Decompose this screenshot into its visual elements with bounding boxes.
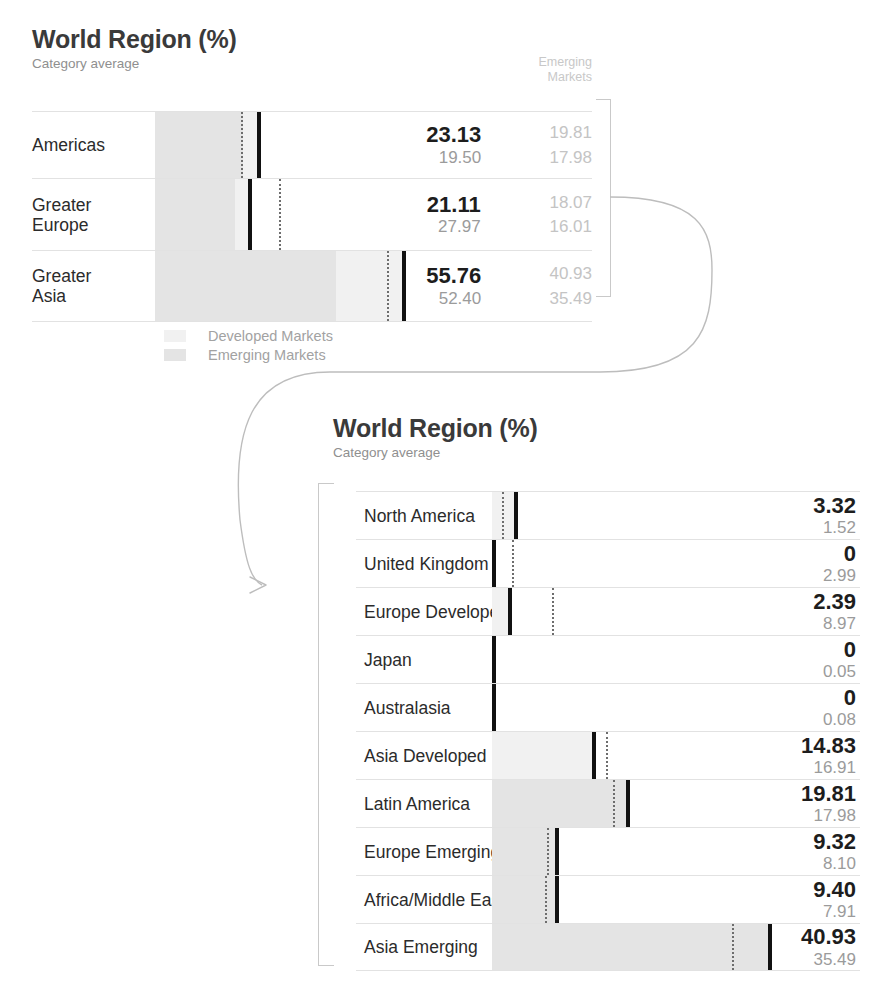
table-row[interactable]: Greater Asia 55.76 40.93 52.40 35.49 [32,250,592,322]
benchmark-value: 35.49 [801,950,856,969]
benchmark-marker [502,492,504,539]
top-chart-emerging-markets-header: Emerging Markets [472,55,592,85]
row-label: United Kingdom [364,554,489,574]
portfolio-value: 0 [823,686,856,711]
portfolio-value: 0 [823,542,856,567]
portfolio-marker [492,684,496,731]
portfolio-value: 14.83 [801,734,856,759]
portfolio-value: 23.13 [426,123,481,148]
bar-segment-emerging [155,251,336,321]
top-chart-rows: Americas 23.13 19.81 19.50 17.98 Greater… [32,111,592,322]
legend-item-developed: Developed Markets [164,326,333,345]
bar-segment-developed [235,179,249,250]
row-values: 9.40 7.91 [813,878,856,922]
benchmark-marker [279,179,281,250]
table-row[interactable]: Americas 23.13 19.81 19.50 17.98 [32,111,592,178]
row-values: 0 0.08 [823,686,856,730]
bar-segment-emerging [492,924,768,970]
table-row[interactable]: United Kingdom 0 2.99 [356,539,860,587]
benchmark-value: 0.08 [823,711,856,730]
row-plot [492,684,860,731]
portfolio-value: 21.11 [427,193,481,218]
portfolio-marker [626,780,630,827]
benchmark-value: 8.97 [813,615,856,634]
emerging-portfolio-value: 18.07 [549,193,592,218]
portfolio-value: 19.81 [801,782,856,807]
portfolio-value: 9.40 [813,878,856,903]
bar-segment-emerging [492,828,555,875]
benchmark-value: 52.40 [439,289,482,308]
bar-segment-emerging [492,780,626,827]
table-row[interactable]: Japan 0 0.05 [356,635,860,683]
benchmark-value: 1.52 [813,519,856,538]
portfolio-marker [555,828,559,875]
row-values: 23.13 19.81 19.50 17.98 [372,123,592,167]
top-chart-legend: Developed Markets Emerging Markets [164,326,333,364]
bar-segment-emerging [155,112,243,178]
row-values: 21.11 18.07 27.97 16.01 [372,193,592,237]
benchmark-marker [606,732,608,779]
bar-segment-developed [492,732,592,779]
portfolio-marker [492,636,496,683]
row-values: 0 2.99 [823,542,856,586]
table-row[interactable]: Latin America 19.81 17.98 [356,779,860,827]
table-row[interactable]: Europe Emerging 9.32 8.10 [356,827,860,875]
benchmark-marker [552,588,554,635]
emerging-portfolio-value: 19.81 [549,123,592,148]
portfolio-marker [492,540,496,587]
portfolio-marker [248,179,252,250]
row-values: 14.83 16.91 [801,734,856,778]
table-row[interactable]: North America 3.32 1.52 [356,491,860,539]
portfolio-value: 9.32 [813,830,856,855]
legend-label: Emerging Markets [208,347,326,363]
benchmark-marker [512,540,514,587]
legend-item-emerging: Emerging Markets [164,345,333,364]
table-row[interactable]: Asia Emerging 40.93 35.49 [356,923,860,971]
benchmark-marker [545,876,547,923]
emerging-portfolio-value: 40.93 [549,264,592,289]
row-plot [492,636,860,683]
row-label: Latin America [364,794,470,814]
row-values: 2.39 8.97 [813,590,856,634]
row-label: Europe Emerging [364,842,500,862]
portfolio-marker [514,492,518,539]
table-row[interactable]: Asia Developed 14.83 16.91 [356,731,860,779]
portfolio-value: 0 [823,638,856,663]
emerging-benchmark-value: 17.98 [549,148,592,167]
benchmark-value: 16.91 [801,759,856,778]
benchmark-value: 8.10 [813,855,856,874]
portfolio-value: 2.39 [813,590,856,615]
top-chart-panel: World Region (%) Category average Emergi… [32,26,592,322]
portfolio-value: 3.32 [813,494,856,519]
top-chart-title: World Region (%) [32,26,592,52]
portfolio-marker [257,112,261,178]
benchmark-value: 17.98 [801,807,856,826]
row-values: 0 0.05 [823,638,856,682]
benchmark-value: 19.50 [439,148,482,167]
table-row[interactable]: Europe Developed 2.39 8.97 [356,587,860,635]
legend-label: Developed Markets [208,328,333,344]
row-values: 19.81 17.98 [801,782,856,826]
table-row[interactable]: Australasia 0 0.08 [356,683,860,731]
portfolio-value: 40.93 [801,925,856,950]
table-row[interactable]: Africa/Middle East 9.40 7.91 [356,875,860,923]
row-plot [492,588,860,635]
row-label: Japan [364,650,412,670]
benchmark-value: 0.05 [823,663,856,682]
portfolio-value: 55.76 [426,264,481,289]
row-label: Greater Asia [32,266,91,306]
bar-segment-developed [492,588,508,635]
row-plot [492,876,860,923]
row-values: 40.93 35.49 [801,925,856,969]
benchmark-value: 27.97 [438,218,481,237]
legend-swatch-developed-icon [164,330,186,342]
benchmark-value: 2.99 [823,567,856,586]
row-plot [492,540,860,587]
bottom-chart-rows: North America 3.32 1.52 United Kingdom 0… [356,491,860,971]
row-label: Australasia [364,698,451,718]
portfolio-marker [592,732,596,779]
benchmark-marker [732,924,734,970]
row-label: Greater Europe [32,195,91,235]
bottom-chart-subtitle: Category average [333,445,860,460]
table-row[interactable]: Greater Europe 21.11 18.07 27.97 16.01 [32,178,592,250]
